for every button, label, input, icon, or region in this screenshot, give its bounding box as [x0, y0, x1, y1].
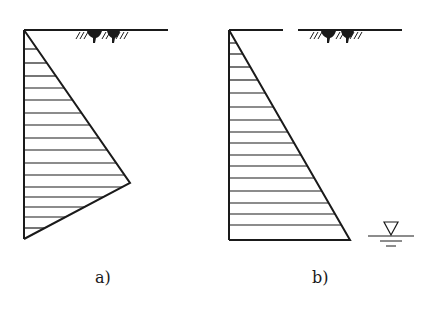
- hatch-stroke: [124, 32, 128, 39]
- hatch-stroke: [84, 32, 88, 39]
- panel-a-pressure-diagram: [24, 30, 168, 239]
- hatch-stroke: [318, 32, 322, 39]
- hatch-stroke: [102, 32, 106, 39]
- water-triangle: [384, 222, 398, 235]
- water-table-icon: [368, 222, 414, 246]
- hatch-stroke: [310, 32, 314, 39]
- panel-a-label: a): [95, 268, 111, 287]
- hatch-stroke: [354, 32, 358, 39]
- hatch-stroke: [358, 32, 362, 39]
- panel-b-label: b): [312, 268, 328, 287]
- pressure-outline: [24, 30, 130, 239]
- hatch-stroke: [314, 32, 318, 39]
- hatch-stroke: [80, 32, 84, 39]
- panel-b-pressure-diagram: [229, 30, 414, 246]
- hatch-stroke: [120, 32, 124, 39]
- soil-blob: [341, 31, 354, 43]
- ground-surface-symbol: [76, 31, 128, 43]
- soil-blob: [321, 31, 336, 43]
- pressure-outline: [229, 30, 350, 240]
- hatch-stroke: [336, 32, 340, 39]
- soil-blob: [107, 31, 120, 43]
- soil-blob: [87, 31, 102, 43]
- ground-surface-symbol: [310, 31, 362, 43]
- earth-pressure-diagram: [0, 0, 437, 314]
- hatch-stroke: [76, 32, 80, 39]
